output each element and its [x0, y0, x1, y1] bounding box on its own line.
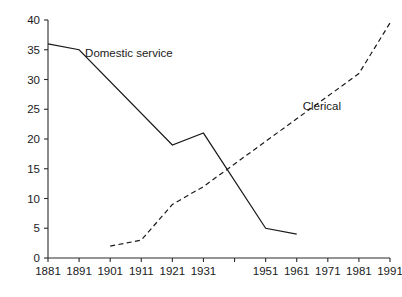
- y-tick-label: 0: [34, 252, 40, 264]
- series-label-clerical: Clerical: [303, 100, 341, 112]
- x-axis: 1881189119011911192119311951196119711981…: [35, 258, 402, 277]
- y-tick-label: 30: [27, 74, 40, 86]
- series-label-domestic-service: Domestic service: [85, 47, 173, 59]
- x-tick-label: 1901: [97, 265, 123, 277]
- series-line-domestic-service: [48, 44, 297, 234]
- y-tick-label: 25: [27, 103, 40, 115]
- x-tick-label: 1991: [377, 265, 402, 277]
- y-tick-label: 20: [27, 133, 40, 145]
- y-tick-label: 40: [27, 14, 40, 26]
- x-tick-label: 1961: [284, 265, 310, 277]
- x-tick-label: 1881: [35, 265, 61, 277]
- y-tick-label: 35: [27, 44, 40, 56]
- y-tick-label: 10: [27, 193, 40, 205]
- x-tick-label: 1971: [315, 265, 341, 277]
- x-tick-label: 1911: [129, 265, 154, 277]
- line-chart: 0510152025303540 18811891190119111921193…: [0, 0, 402, 297]
- x-tick-label: 1951: [253, 265, 279, 277]
- x-tick-label: 1981: [346, 265, 372, 277]
- y-axis: 0510152025303540: [27, 14, 48, 264]
- y-tick-label: 15: [27, 163, 40, 175]
- y-tick-label: 5: [34, 222, 40, 234]
- x-tick-label: 1891: [66, 265, 92, 277]
- x-tick-label: 1921: [160, 265, 186, 277]
- chart-canvas: 0510152025303540 18811891190119111921193…: [0, 0, 402, 297]
- series-annotations: Domestic serviceClerical: [85, 47, 341, 113]
- x-tick-label: 1931: [191, 265, 217, 277]
